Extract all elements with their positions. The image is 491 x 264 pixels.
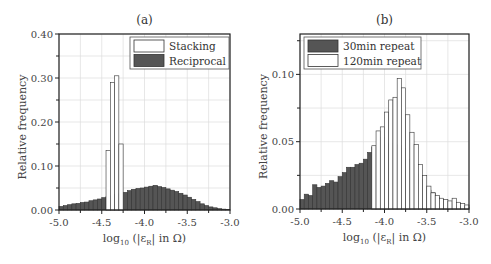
bar	[157, 187, 161, 210]
y-tick-label: 0.20	[31, 117, 53, 128]
x-tick-label: -4.0	[375, 216, 394, 227]
bar	[385, 112, 389, 209]
bar	[136, 188, 140, 210]
bar	[145, 187, 149, 210]
bar	[448, 201, 452, 209]
y-tick-label: 0.00	[31, 205, 53, 216]
bar	[179, 193, 183, 210]
x-tick-label: -3.5	[417, 216, 436, 227]
y-tick-label: 0.40	[31, 29, 53, 40]
x-tick-label: -4.5	[92, 217, 111, 228]
legend-swatch	[134, 55, 164, 67]
bar	[313, 185, 317, 209]
bar	[119, 144, 123, 210]
bar	[170, 190, 174, 210]
bar	[300, 200, 304, 209]
bar	[346, 167, 350, 209]
bar	[321, 186, 325, 209]
bar	[439, 198, 443, 209]
bar	[410, 132, 414, 209]
x-axis-label: log10 (|εR| in Ω)	[343, 231, 426, 246]
bar	[406, 115, 410, 209]
bar	[200, 204, 204, 210]
x-tick-label: -4.0	[135, 217, 154, 228]
legend-label: Reciprocal	[169, 55, 227, 67]
bar	[140, 188, 144, 210]
bar	[196, 202, 200, 210]
bar	[102, 198, 106, 210]
bar	[342, 173, 346, 209]
legend-label: 120min repeat	[343, 55, 422, 67]
bar	[401, 88, 405, 209]
chart-panel-b: 0.000.050.10-5.0-4.5-4.0-3.5-3.0(b)log10…	[257, 13, 479, 246]
bar	[368, 152, 372, 209]
bar	[435, 196, 439, 209]
bar	[93, 200, 97, 210]
bar	[72, 204, 76, 210]
y-tick-label: 0.00	[272, 204, 294, 215]
bar	[304, 194, 308, 209]
legend: StackingReciprocal	[130, 37, 229, 69]
bar	[338, 177, 342, 209]
bar	[63, 206, 67, 210]
y-tick-label: 0.10	[31, 161, 53, 172]
bar	[187, 197, 191, 210]
legend-label: 30min repeat	[343, 40, 415, 52]
bar	[132, 189, 136, 210]
y-tick-label: 0.10	[272, 69, 294, 80]
legend-swatch	[308, 55, 338, 67]
bar	[423, 175, 427, 209]
bar	[363, 159, 367, 209]
bar	[376, 131, 380, 209]
bar	[444, 200, 448, 209]
bar	[355, 165, 359, 209]
bar	[372, 146, 376, 209]
bar	[427, 186, 431, 209]
bar	[68, 205, 72, 210]
bar	[89, 201, 93, 210]
x-axis-label: log10 (|εR| in Ω)	[103, 232, 186, 247]
bar	[418, 165, 422, 209]
bar	[325, 183, 329, 209]
bar	[334, 182, 338, 209]
bar	[127, 191, 131, 210]
bar	[166, 189, 170, 210]
bar	[162, 188, 166, 210]
y-tick-label: 0.05	[272, 136, 294, 147]
x-tick-label: -5.0	[290, 216, 309, 227]
bar	[359, 163, 363, 209]
legend-swatch	[308, 40, 338, 52]
x-tick-label: -3.0	[220, 217, 239, 228]
y-axis-label: Relative frequency	[257, 73, 270, 179]
series-120min-repeat	[372, 78, 469, 209]
x-tick-label: -5.0	[49, 217, 68, 228]
chart-title: (a)	[136, 13, 153, 27]
series-stacking	[106, 76, 123, 210]
bar	[123, 192, 127, 210]
bar	[380, 127, 384, 209]
bar	[461, 204, 465, 209]
chart-panel-a: 0.000.100.200.300.40-5.0-4.5-4.0-3.5-3.0…	[16, 13, 240, 247]
bar	[317, 187, 321, 209]
bar	[330, 181, 334, 209]
bar	[414, 144, 418, 209]
bar	[308, 196, 312, 209]
bar	[351, 167, 355, 209]
bar	[397, 78, 401, 209]
bar	[110, 82, 114, 210]
figure: 0.000.100.200.300.40-5.0-4.5-4.0-3.5-3.0…	[0, 0, 491, 264]
series-reciprocal	[59, 185, 230, 210]
bar	[153, 185, 157, 210]
bar	[204, 206, 208, 210]
y-axis-label: Relative frequency	[16, 74, 29, 180]
legend-label: Stacking	[169, 40, 216, 52]
bar	[149, 186, 153, 210]
bar	[106, 151, 110, 210]
bar	[192, 199, 196, 210]
bar	[115, 76, 119, 210]
chart-title: (b)	[376, 13, 393, 27]
bar	[389, 100, 393, 209]
bar	[76, 203, 80, 210]
bar	[97, 199, 101, 210]
bar	[465, 205, 469, 209]
